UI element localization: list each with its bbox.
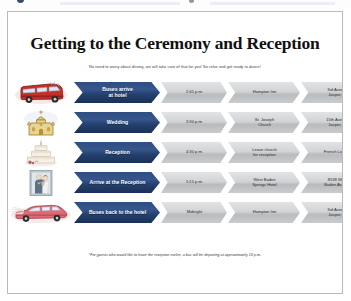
address-line2: Jasper, IN [327,93,343,98]
place-cell: Leave church for reception [228,142,300,163]
place-cell: West Baden Springs Hotel [228,172,300,193]
address-cell: 15th Avenue Jasper, IN [301,112,343,133]
circle-icon [17,0,24,3]
time-cell: 4:30 p.m. [161,142,227,163]
table-row: Arrive at the Reception 5:15 p.m. West B… [8,168,342,197]
event-label-line1: Wedding [107,119,128,125]
event-cell: Reception [74,142,160,163]
address-line2: Jasper, IN [327,213,343,218]
address-cell: French Lick, IN [301,142,343,163]
address-cell: 3rd Avenue Jasper, IN [301,202,343,223]
page-subtitle: No need to worry about driving, we will … [8,64,342,69]
app-chrome-strip [0,0,351,9]
event-cell: Buses back to the hotel [74,202,160,223]
table-row: Buses back to the hotel Midnight Hampton… [8,198,342,227]
place-line2: Church [255,123,274,128]
document-page: Getting to the Ceremony and Reception No… [7,11,343,294]
wedding-cake-icon [8,138,74,167]
place-cell: Hampton Inn [228,82,300,103]
address-cell: 3rd Avenue Jasper, IN [301,82,343,103]
time-cell: 3:30 p.m. [161,112,227,133]
page-title: Getting to the Ceremony and Reception [8,33,342,54]
time-value: 5:15 p.m. [186,180,203,185]
limousine-icon [8,198,74,227]
time-cell: 5:15 p.m. [161,172,227,193]
place-line1: Hampton Inn [253,89,276,94]
time-value: 4:30 p.m. [186,150,203,155]
bus-icon [8,78,74,107]
circle-icon [189,0,194,3]
event-label-line1: Reception [105,149,130,155]
event-label-line2: at hotel [108,92,126,98]
chrome-divider [210,2,335,5]
time-value: 2:45 p.m. [186,90,203,95]
bride-groom-icon [8,168,74,197]
event-label-line2: Reception [121,179,146,185]
time-value: 3:30 p.m. [186,120,203,125]
footnote: *For guests who would like to leave the … [8,253,342,257]
place-line1: Hampton Inn [253,209,276,214]
chrome-divider [60,2,180,5]
table-row: Wedding 3:30 p.m. St. Joseph Church 15th… [8,108,342,137]
address-line2: Baden Avenue [324,183,343,188]
time-value: Midnight [187,210,202,215]
place-line2: Springs Hotel [252,183,277,188]
event-label-line2: to the hotel [119,209,146,215]
address-line1: French Lick, IN [324,149,343,154]
place-cell: St. Joseph Church [228,112,300,133]
place-cell: Hampton Inn [228,202,300,223]
event-cell: Arrive at the Reception [74,172,160,193]
table-row: Reception 4:30 p.m. Leave church for rec… [8,138,342,167]
address-cell: 8538 West Baden Avenue [301,172,343,193]
event-label-line1: Buses back [89,209,117,215]
schedule-table: Buses arrive at hotel 2:45 p.m. Hampton … [8,78,342,227]
event-cell: Buses arrive at hotel [74,82,160,103]
event-cell: Wedding [74,112,160,133]
place-line2: for reception [252,153,277,158]
table-row: Buses arrive at hotel 2:45 p.m. Hampton … [8,78,342,107]
church-icon [8,108,74,137]
address-line2: Jasper, IN [326,123,343,128]
time-cell: 2:45 p.m. [161,82,227,103]
event-label-line1: Arrive at the [90,179,120,185]
time-cell: Midnight [161,202,227,223]
